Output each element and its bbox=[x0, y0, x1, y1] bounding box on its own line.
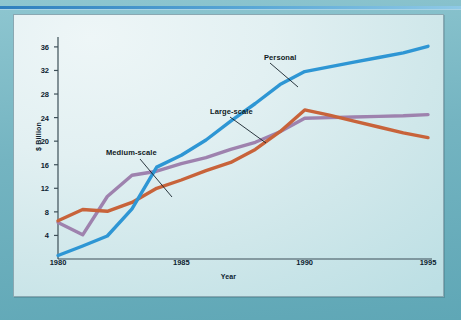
chart-page: $ Billion Year 4812162024283236 19801985… bbox=[0, 0, 461, 320]
y-tick-label: 24 bbox=[27, 114, 49, 123]
annotation-label-personal: Personal bbox=[264, 53, 296, 62]
y-tick-label: 4 bbox=[27, 231, 49, 240]
x-tick-label: 1980 bbox=[38, 258, 78, 267]
y-tick-label: 32 bbox=[27, 66, 49, 75]
y-tick-label: 16 bbox=[27, 161, 49, 170]
y-tick-label: 20 bbox=[27, 137, 49, 146]
line-chart-plot bbox=[14, 15, 443, 296]
annotation-label-medium-scale: Medium-scale bbox=[106, 148, 157, 157]
series-line-medium-scale bbox=[58, 115, 428, 235]
y-tick-label: 36 bbox=[27, 43, 49, 52]
x-tick-label: 1990 bbox=[285, 258, 325, 267]
chart-panel: $ Billion Year 4812162024283236 19801985… bbox=[13, 14, 444, 297]
x-tick-label: 1995 bbox=[408, 258, 448, 267]
y-tick-label: 8 bbox=[27, 208, 49, 217]
top-rule-highlight bbox=[0, 9, 461, 10]
x-tick-label: 1985 bbox=[161, 258, 201, 267]
annotation-leader-line bbox=[140, 159, 172, 197]
annotation-label-large-scale: Large-scale bbox=[210, 107, 253, 116]
x-axis-title: Year bbox=[14, 273, 443, 280]
y-tick-label: 12 bbox=[27, 184, 49, 193]
annotation-leader-line bbox=[230, 117, 266, 143]
y-tick-label: 28 bbox=[27, 90, 49, 99]
